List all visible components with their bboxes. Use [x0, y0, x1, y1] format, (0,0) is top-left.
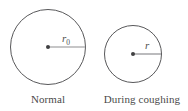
- coughing-radius-label-symbol: r: [145, 39, 150, 51]
- panel-during-coughing: r: [105, 26, 162, 83]
- normal-radius-label-subscript: 0: [66, 38, 70, 47]
- normal-center-dot: [46, 45, 50, 49]
- caption-normal: Normal: [0, 94, 96, 105]
- trachea-radius-figure: r0 r Normal During coughing: [0, 0, 188, 111]
- caption-during-coughing: During coughing: [96, 94, 188, 105]
- normal-radius-label: r0: [62, 32, 70, 47]
- panel-normal: r0: [11, 10, 86, 85]
- coughing-radius-label: r: [145, 39, 150, 51]
- coughing-center-dot: [131, 52, 135, 56]
